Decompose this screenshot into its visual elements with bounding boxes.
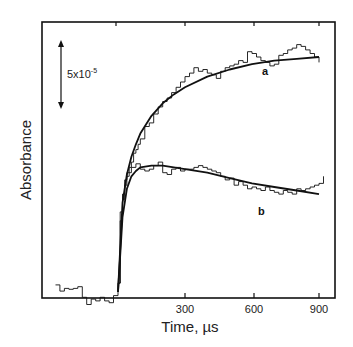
series-label-b: b xyxy=(258,205,265,217)
x-tick-label-900: 900 xyxy=(310,303,328,315)
plot-frame xyxy=(42,22,335,298)
absorbance-chart: 300 600 900 Time, µs Absorbance 5x10-5 a… xyxy=(0,0,353,347)
x-axis-label: Time, µs xyxy=(161,318,218,335)
y-axis-label: Absorbance xyxy=(17,120,34,200)
trace-b-noisy-trace xyxy=(118,162,324,283)
scale-bar-arrow-icon xyxy=(58,40,64,109)
plot-traces xyxy=(56,45,324,305)
series-label-a: a xyxy=(262,65,269,77)
trace-a-noisy-trace xyxy=(56,45,320,305)
x-tick-label-300: 300 xyxy=(176,303,194,315)
x-ticks xyxy=(116,22,319,298)
x-tick-label-600: 600 xyxy=(245,303,263,315)
scale-bar-label: 5x10-5 xyxy=(67,67,97,80)
trace-b-fit xyxy=(118,166,319,292)
